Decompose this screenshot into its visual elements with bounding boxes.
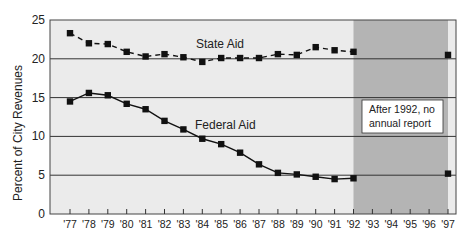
state-aid-marker <box>237 55 243 61</box>
y-axis-label: Percent of City Revenues <box>11 65 25 201</box>
federal-aid-marker <box>445 170 451 176</box>
state-aid-marker <box>199 59 205 65</box>
federal-aid-marker <box>142 106 148 112</box>
x-tick-label: '83 <box>177 218 191 230</box>
federal-aid-marker <box>331 176 337 182</box>
x-tick-label: '87 <box>252 218 266 230</box>
x-tick-label: '84 <box>195 218 209 230</box>
federal-aid-marker <box>180 126 186 132</box>
federal-aid-marker <box>350 175 356 181</box>
x-tick-label: '92 <box>347 218 361 230</box>
y-axis-ticks: 0510152025 <box>32 13 46 221</box>
state-aid-marker <box>142 53 148 59</box>
x-tick-label: '78 <box>82 218 96 230</box>
x-tick-label: '86 <box>233 218 247 230</box>
y-tick-label: 5 <box>38 168 45 182</box>
x-tick-label: '88 <box>271 218 285 230</box>
x-tick-label: '80 <box>120 218 134 230</box>
state-aid-marker <box>161 51 167 57</box>
x-tick-label: '96 <box>422 218 436 230</box>
state-aid-marker <box>445 52 451 58</box>
state-aid-marker <box>180 54 186 60</box>
x-tick-label: '90 <box>309 218 323 230</box>
state-aid-marker <box>67 30 73 36</box>
annotation-line-1: After 1992, no <box>369 103 435 115</box>
state-aid-marker <box>331 47 337 53</box>
y-tick-label: 0 <box>38 207 45 221</box>
state-aid-marker <box>124 49 130 55</box>
line-chart: 0510152025 '77'78'79'80'81'82'83'84'85'8… <box>0 0 476 242</box>
x-tick-label: '85 <box>214 218 228 230</box>
state-aid-marker <box>105 41 111 47</box>
federal-aid-label: Federal Aid <box>195 118 256 132</box>
x-tick-label: '95 <box>403 218 417 230</box>
federal-aid-marker <box>105 92 111 98</box>
x-tick-label: '97 <box>441 218 455 230</box>
federal-aid-marker <box>199 136 205 142</box>
state-aid-marker <box>313 44 319 50</box>
y-tick-label: 25 <box>32 13 46 27</box>
state-aid-label: State Aid <box>196 37 244 51</box>
state-aid-marker <box>86 40 92 46</box>
federal-aid-marker <box>256 161 262 167</box>
federal-aid-marker <box>313 174 319 180</box>
x-tick-label: '79 <box>101 218 115 230</box>
state-aid-marker <box>350 49 356 55</box>
state-aid-marker <box>294 52 300 58</box>
y-tick-label: 10 <box>32 129 46 143</box>
x-tick-label: '89 <box>290 218 304 230</box>
state-aid-marker <box>275 51 281 57</box>
federal-aid-marker <box>275 170 281 176</box>
state-aid-marker <box>256 55 262 61</box>
federal-aid-marker <box>218 141 224 147</box>
federal-aid-marker <box>124 101 130 107</box>
x-tick-label: '77 <box>63 218 77 230</box>
federal-aid-marker <box>161 118 167 124</box>
annotation-line-2: annual report <box>369 117 431 129</box>
y-tick-label: 15 <box>32 91 46 105</box>
federal-aid-marker <box>237 149 243 155</box>
y-tick-label: 20 <box>32 52 46 66</box>
state-aid-marker <box>218 55 224 61</box>
federal-aid-marker <box>67 98 73 104</box>
x-tick-label: '82 <box>158 218 172 230</box>
annotation-box: After 1992, no annual report <box>362 100 443 133</box>
federal-aid-marker <box>86 90 92 96</box>
x-tick-label: '81 <box>139 218 153 230</box>
x-tick-label: '94 <box>384 218 398 230</box>
x-tick-label: '93 <box>366 218 380 230</box>
federal-aid-marker <box>294 171 300 177</box>
x-tick-label: '91 <box>328 218 342 230</box>
